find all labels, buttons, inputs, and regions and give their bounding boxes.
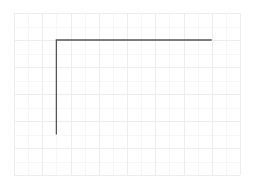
chart-figure — [0, 0, 255, 190]
line-chart — [0, 0, 255, 190]
